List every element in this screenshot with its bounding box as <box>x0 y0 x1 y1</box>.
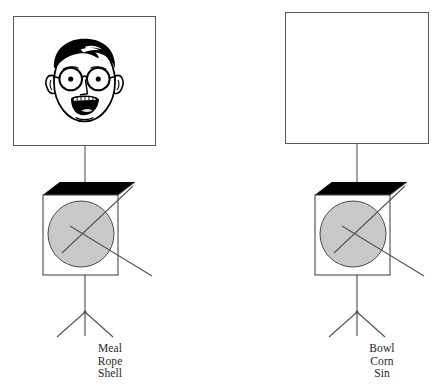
gray-circle <box>48 201 114 267</box>
diagram-unit-right: Bowl Corn Sin <box>220 0 440 388</box>
easel-structure-right <box>220 0 440 388</box>
stand-leg-left <box>57 312 85 337</box>
caption-line-3: Sin <box>272 367 440 380</box>
diagram-canvas: Meal Rope Shell Bowl Corn S <box>0 0 440 388</box>
caption-line-1: Meal <box>0 342 220 355</box>
stand-leg-left <box>329 312 357 337</box>
gray-circle <box>320 201 386 267</box>
easel-structure-left <box>0 0 220 388</box>
caption-line-3: Shell <box>0 367 220 380</box>
caption-line-1: Bowl <box>272 342 440 355</box>
caption-left: Meal Rope Shell <box>0 342 220 380</box>
diagram-unit-left: Meal Rope Shell <box>0 0 220 388</box>
stand-joint <box>355 310 358 313</box>
caption-right: Bowl Corn Sin <box>272 342 440 380</box>
stand-leg-right <box>357 312 385 337</box>
caption-line-2: Corn <box>272 355 440 368</box>
stand-joint <box>83 310 86 313</box>
stand-leg-right <box>85 312 113 337</box>
caption-line-2: Rope <box>0 355 220 368</box>
